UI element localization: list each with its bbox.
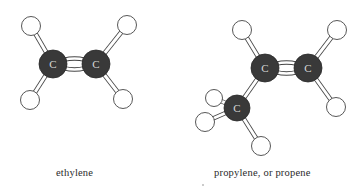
hydrogen-atom-H4 [114,90,133,109]
hydrogen-atom-H2 [328,21,347,40]
bonds [205,30,337,146]
molecule-diagram: CC CCC [0,0,358,192]
carbon-atom-C1: C [39,50,67,78]
ethylene-model: CC [21,16,137,110]
hydrogen-atom-H1 [233,21,252,40]
hydrogen-atom-H4 [206,90,223,107]
hydrogen-atom-H6 [252,137,271,156]
hydrogen-atom-H2 [21,91,40,110]
carbon-atom-C3: C [224,95,250,121]
ethylene-caption: ethylene [56,167,93,178]
hydrogen-atom-H5 [196,113,215,132]
propylene-caption: propylene, or propene [214,167,311,178]
carbon-atom-C2: C [82,50,110,78]
hydrogen-atom-H3 [327,98,346,117]
carbon-label: C [233,102,240,114]
hydrogen-atom-H1 [22,17,41,36]
carbon-label: C [261,62,268,74]
carbon-label: C [304,62,311,74]
hydrogen-atom-H3 [118,16,137,35]
carbon-label: C [49,58,56,70]
carbon-atom-C1: C [251,54,279,82]
carbon-atom-C2: C [294,54,322,82]
stray-dot [202,184,204,186]
carbon-label: C [92,58,99,70]
propylene-model: CCC [196,21,347,156]
